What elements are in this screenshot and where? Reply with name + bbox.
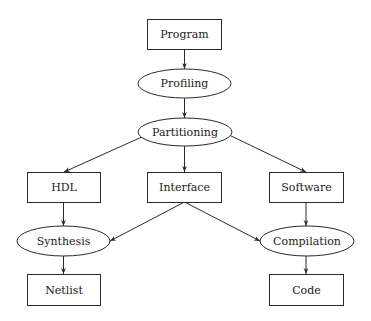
edge-partitioning-to-software bbox=[227, 134, 306, 172]
node-interface: Interface bbox=[148, 173, 222, 203]
node-program: Program bbox=[148, 20, 222, 50]
compilation-label: Compilation bbox=[273, 235, 341, 248]
edge-interface-to-synthesis bbox=[110, 202, 185, 241]
hdl-label: HDL bbox=[51, 181, 77, 194]
node-profiling: Profiling bbox=[138, 69, 231, 98]
node-hdl: HDL bbox=[28, 173, 101, 203]
code-label: Code bbox=[292, 284, 321, 297]
software-label: Software bbox=[281, 181, 331, 194]
node-code: Code bbox=[270, 275, 344, 306]
node-netlist: Netlist bbox=[28, 275, 101, 306]
interface-label: Interface bbox=[159, 181, 210, 194]
program-label: Program bbox=[160, 28, 209, 41]
partitioning-label: Partitioning bbox=[152, 126, 218, 139]
edge-partitioning-to-hdl bbox=[64, 136, 144, 172]
node-software: Software bbox=[270, 173, 344, 203]
node-partitioning: Partitioning bbox=[138, 118, 232, 146]
synthesis-label: Synthesis bbox=[37, 235, 91, 248]
hw-sw-codesign-flowchart: Program Profiling Partitioning HDL Inter… bbox=[0, 0, 371, 321]
profiling-label: Profiling bbox=[161, 77, 209, 90]
node-compilation: Compilation bbox=[260, 226, 354, 256]
node-synthesis: Synthesis bbox=[17, 226, 110, 256]
edge-interface-to-compilation bbox=[185, 202, 261, 241]
netlist-label: Netlist bbox=[45, 284, 83, 297]
